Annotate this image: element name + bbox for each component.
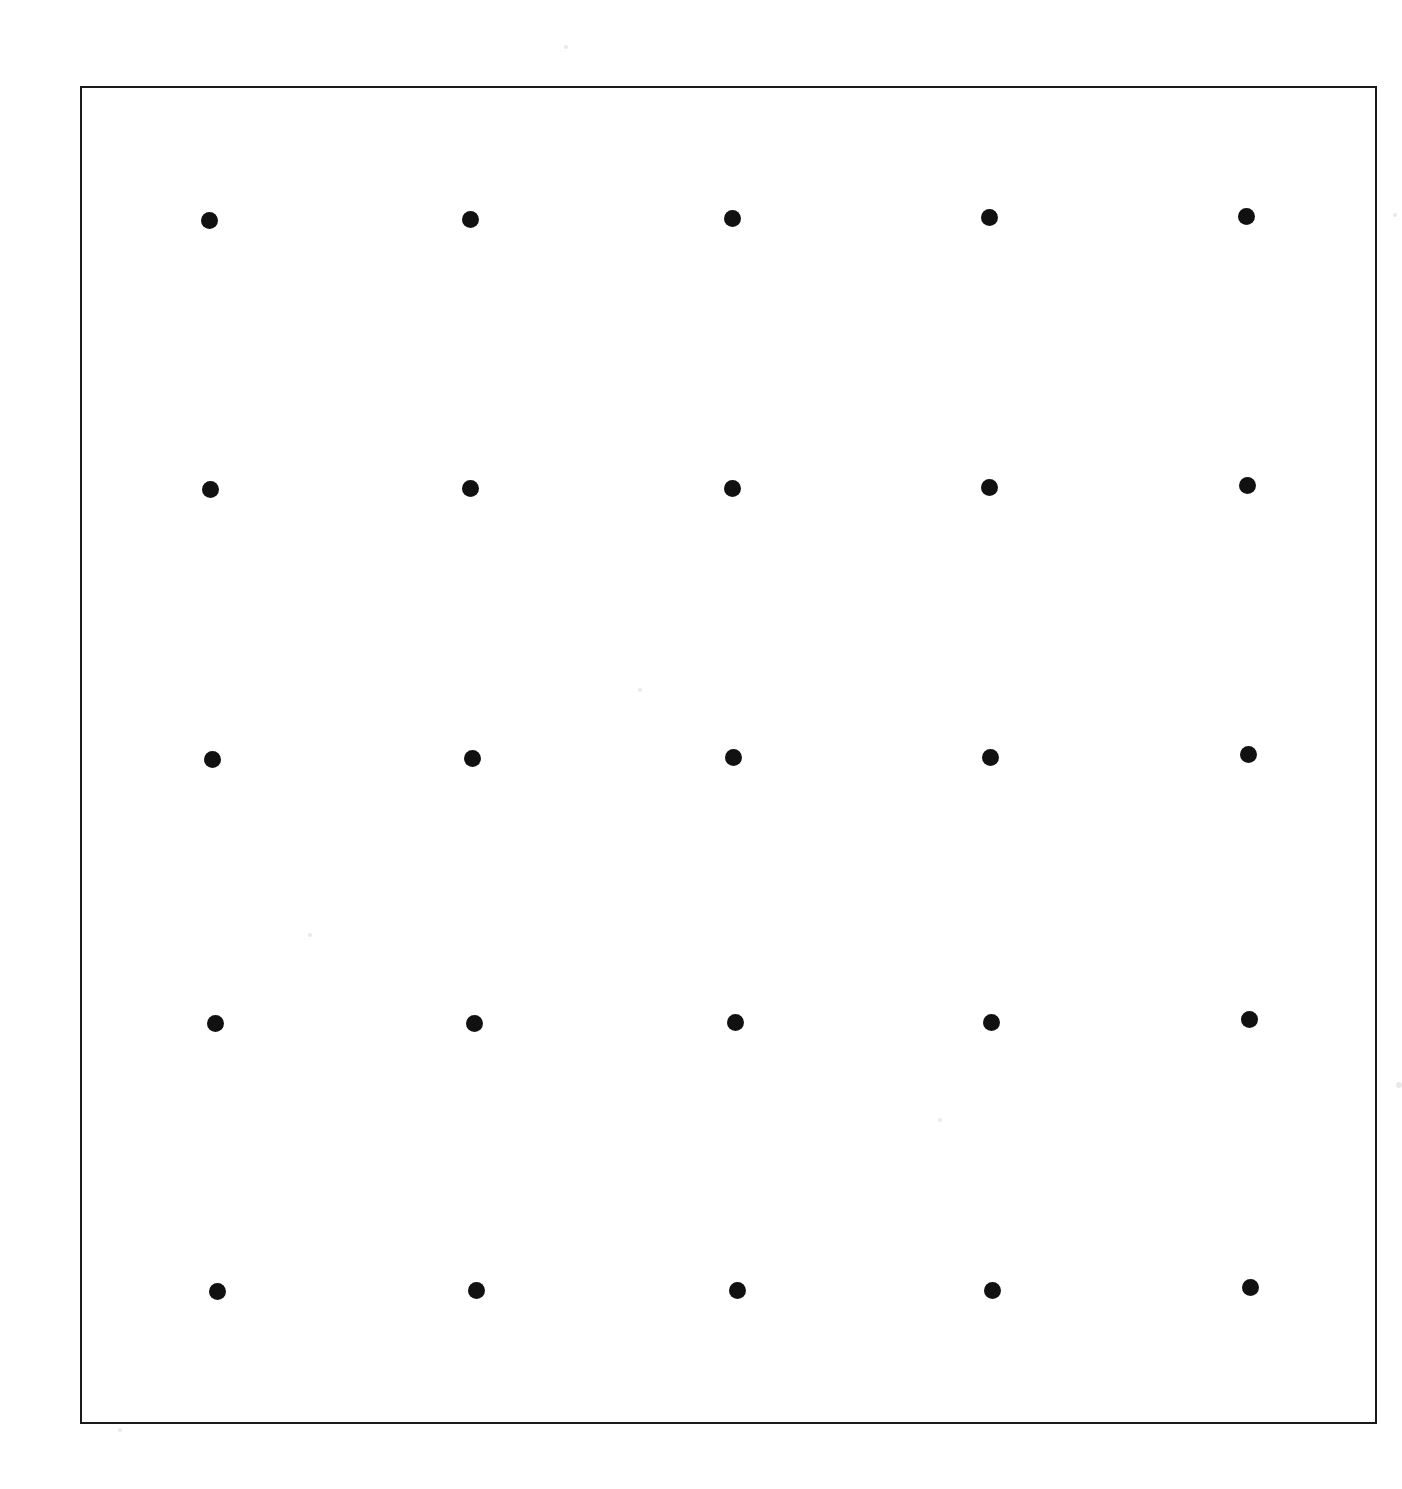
figure-page xyxy=(0,0,1402,1489)
scan-speckle-3 xyxy=(118,1428,122,1432)
grid-dot-r4-c3 xyxy=(727,1014,744,1031)
grid-dot-r3-c3 xyxy=(725,749,742,766)
grid-dot-r2-c3 xyxy=(724,480,741,497)
grid-dot-r4-c5 xyxy=(1241,1011,1258,1028)
grid-dot-r4-c4 xyxy=(983,1014,1000,1031)
grid-dot-r1-c5 xyxy=(1238,208,1255,225)
scan-speckle-2 xyxy=(1396,1082,1402,1088)
grid-dot-r1-c2 xyxy=(462,211,479,228)
grid-dot-r2-c5 xyxy=(1239,477,1256,494)
grid-dot-r2-c1 xyxy=(202,481,219,498)
grid-dot-r5-c5 xyxy=(1242,1279,1259,1296)
grid-dot-r3-c2 xyxy=(464,750,481,767)
grid-dot-r5-c4 xyxy=(984,1282,1001,1299)
grid-dot-r5-c2 xyxy=(468,1282,485,1299)
grid-dot-r4-c1 xyxy=(207,1015,224,1032)
grid-dot-r5-c1 xyxy=(209,1283,226,1300)
scan-speckle-1 xyxy=(564,45,568,49)
grid-dot-r5-c3 xyxy=(729,1282,746,1299)
grid-dot-r3-c1 xyxy=(204,751,221,768)
grid-dot-r1-c4 xyxy=(981,209,998,226)
grid-dot-r1-c3 xyxy=(724,210,741,227)
grid-dot-r3-c4 xyxy=(982,749,999,766)
grid-dot-r2-c2 xyxy=(462,480,479,497)
grid-dot-r1-c1 xyxy=(201,212,218,229)
scan-speckle-4 xyxy=(1393,213,1397,217)
grid-dot-r3-c5 xyxy=(1240,746,1257,763)
grid-dot-r2-c4 xyxy=(981,479,998,496)
grid-dot-r4-c2 xyxy=(466,1015,483,1032)
